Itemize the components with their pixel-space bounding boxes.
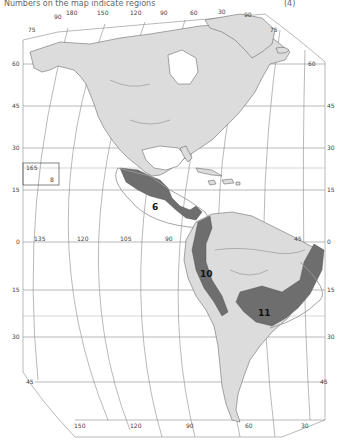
svg-text:90: 90 <box>244 11 252 18</box>
svg-text:45: 45 <box>12 102 20 109</box>
region-6-label: 6 <box>152 202 158 212</box>
svg-text:105: 105 <box>120 235 132 242</box>
svg-text:45: 45 <box>320 378 328 385</box>
svg-text:90: 90 <box>186 422 194 429</box>
svg-text:150: 150 <box>97 9 109 16</box>
svg-text:90: 90 <box>165 235 173 242</box>
svg-text:180: 180 <box>66 9 78 16</box>
svg-text:60: 60 <box>245 422 253 429</box>
inset-sub-label: 8 <box>50 176 54 183</box>
svg-text:60: 60 <box>12 60 20 67</box>
svg-text:75: 75 <box>270 26 278 33</box>
map: Numbers on the map indicate regions (4) <box>0 0 343 442</box>
svg-text:45: 45 <box>294 235 302 242</box>
svg-text:120: 120 <box>130 9 142 16</box>
svg-text:60: 60 <box>308 60 316 67</box>
svg-text:0: 0 <box>327 238 331 245</box>
svg-text:90: 90 <box>160 9 168 16</box>
svg-text:15: 15 <box>12 286 20 293</box>
svg-text:30: 30 <box>12 144 20 151</box>
svg-text:120: 120 <box>130 422 142 429</box>
svg-text:0: 0 <box>16 238 20 245</box>
region-6-area <box>120 168 202 220</box>
svg-text:120: 120 <box>77 235 89 242</box>
map-title-suffix: (4) <box>284 0 295 8</box>
svg-text:30: 30 <box>327 333 335 340</box>
svg-text:135: 135 <box>34 235 46 242</box>
svg-text:15: 15 <box>12 186 20 193</box>
caribbean-islands <box>196 168 240 185</box>
svg-text:30: 30 <box>218 8 226 15</box>
svg-text:90: 90 <box>54 13 62 20</box>
svg-text:15: 15 <box>327 186 335 193</box>
svg-text:75: 75 <box>28 26 36 33</box>
left-latitude-labels: 75 60 45 30 15 0 15 30 45 <box>12 26 36 385</box>
svg-text:150: 150 <box>74 422 86 429</box>
map-title: Numbers on the map indicate regions <box>4 0 155 8</box>
inset-label: 165 <box>26 164 38 171</box>
svg-text:15: 15 <box>327 286 335 293</box>
svg-text:45: 45 <box>327 102 335 109</box>
svg-text:30: 30 <box>327 144 335 151</box>
region-11-label: 11 <box>258 308 271 318</box>
svg-text:60: 60 <box>190 9 198 16</box>
region-10-label: 10 <box>200 269 213 279</box>
svg-text:45: 45 <box>26 378 34 385</box>
svg-text:30: 30 <box>301 422 309 429</box>
svg-text:30: 30 <box>12 333 20 340</box>
